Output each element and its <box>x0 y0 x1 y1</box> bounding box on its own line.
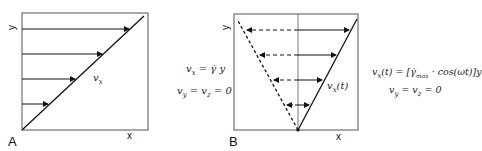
panel-b-equation-2: vy = vz = 0 <box>389 84 441 98</box>
panel-a-plot <box>22 13 148 130</box>
panel-a-profile-label: vx <box>93 72 103 86</box>
panel-b-plot <box>234 14 358 132</box>
panel-a-label: A <box>8 134 17 149</box>
panel-a-equation-2: vy = vz = 0 <box>177 85 232 99</box>
panel-b-x-axis-label: x <box>336 131 341 142</box>
panel-b-label: B <box>229 134 238 149</box>
panel-a-x-axis-label: x <box>127 130 132 141</box>
panel-b-y-axis-label: y <box>220 25 231 30</box>
panel-b-profile-label: vx(t) <box>327 80 348 94</box>
panel-a-equation-1: vx = γ̇ y <box>186 63 225 77</box>
panel-a-y-axis-label: y <box>6 25 17 30</box>
panel-b-equation-1: vx(t) = [γ̇max · cos(ωt)]y <box>372 66 482 80</box>
